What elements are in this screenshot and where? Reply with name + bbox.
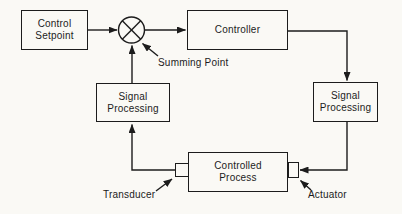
transducer-pointer-arrow <box>156 179 172 191</box>
signal-processing-left-label-line2: Processing <box>107 103 158 115</box>
actuator-label: Actuator <box>308 189 347 200</box>
summing-junction-icon <box>119 17 145 43</box>
signal-processing-right-label-line1: Signal <box>331 90 360 102</box>
control-setpoint-label-line2: Setpoint <box>35 30 73 42</box>
summing-point-label: Summing Point <box>158 57 228 68</box>
control-setpoint-label-line1: Control <box>38 18 72 30</box>
connector-controller-to-signal-processing <box>288 31 347 81</box>
signal-processing-right-label-line2: Processing <box>320 102 371 114</box>
controller-box: Controller <box>187 10 288 50</box>
controlled-process-label-line2: Process <box>219 172 257 184</box>
controlled-process-label-line1: Controlled <box>214 160 262 172</box>
summing-point-pointer-arrow <box>143 44 159 57</box>
block-diagram: Control Setpoint Controller Signal Proce… <box>0 0 402 214</box>
connector-transducer-to-signal-processing <box>132 125 175 171</box>
controller-label: Controller <box>215 24 260 36</box>
connector-signal-processing-to-actuator <box>300 122 347 170</box>
transducer-square <box>175 163 189 177</box>
signal-processing-right-box: Signal Processing <box>313 82 378 122</box>
signal-processing-left-label-line1: Signal <box>119 91 148 103</box>
transducer-label: Transducer <box>103 189 155 200</box>
signal-processing-left-box: Signal Processing <box>96 83 170 122</box>
actuator-square <box>288 162 299 178</box>
controlled-process-box: Controlled Process <box>188 152 288 192</box>
control-setpoint-box: Control Setpoint <box>21 10 88 50</box>
